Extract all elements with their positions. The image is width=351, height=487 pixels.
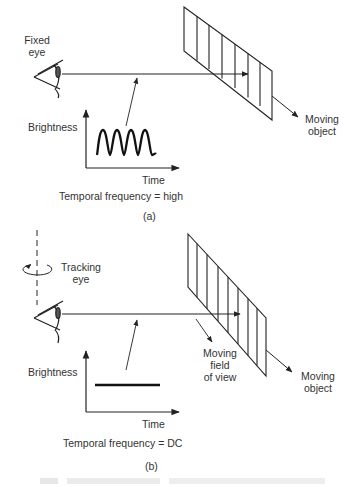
label-line: object [300,125,344,137]
pointer-arrow [126,320,137,370]
label-line: field [197,359,243,371]
pointer-arrow [126,78,137,126]
label-line: eye [22,46,52,58]
panel-label: (b) [145,460,158,472]
fixed-eye-icon [34,60,63,98]
moving-field-of-view-arrow [196,319,212,342]
x-axis-label: Time [142,418,165,430]
faded-caption-strip [40,478,340,484]
tracking-eye-icon [34,301,63,343]
panel-a [34,7,298,168]
frequency-text: Temporal frequency = high [59,190,183,202]
label-line: object [296,382,340,394]
label-line: Moving [197,347,243,359]
diagram-canvas [0,0,351,487]
moving-object-grating [184,7,272,120]
label-line: Tracking [58,261,104,273]
y-axis-label: Brightness [28,366,78,378]
panel-label: (a) [143,210,156,222]
label-line: eye [58,273,104,285]
moving-object-label: Moving object [300,113,344,137]
label-line: Moving [300,113,344,125]
y-axis-label: Brightness [28,121,78,133]
label-line: Moving [296,370,340,382]
moving-object-label: Moving object [296,370,340,394]
object-motion-arrow [266,350,292,372]
tracking-eye-label: Tracking eye [58,261,104,285]
object-motion-arrow [272,96,298,117]
frequency-text: Temporal frequency = DC [63,437,182,449]
moving-field-of-view-label: Moving field of view [197,347,243,383]
label-line: of view [197,371,243,383]
label-line: Fixed [22,34,52,46]
panel-b [23,230,292,412]
x-axis-label: Time [142,174,165,186]
fixed-eye-label: Fixed eye [22,34,52,58]
high-frequency-signal [97,130,156,155]
